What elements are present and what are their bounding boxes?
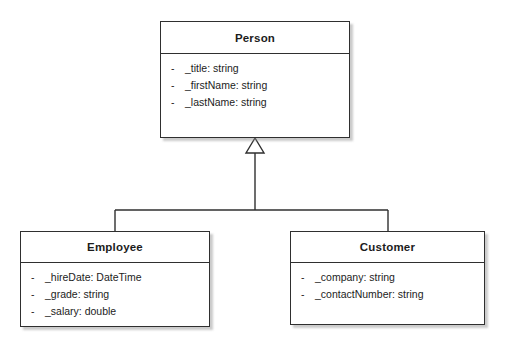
attribute-label: _firstName: string <box>185 78 267 93</box>
visibility-marker: - <box>21 304 45 319</box>
visibility-marker: - <box>161 95 185 110</box>
uml-diagram-canvas: Person - _title: string - _firstName: st… <box>0 0 509 358</box>
attribute-label: _grade: string <box>45 287 109 302</box>
visibility-marker: - <box>291 287 315 302</box>
attribute-row: - _hireDate: DateTime <box>21 270 205 285</box>
class-name-customer: Customer <box>291 232 484 263</box>
class-box-person[interactable]: Person - _title: string - _firstName: st… <box>160 21 350 138</box>
visibility-marker: - <box>291 270 315 285</box>
class-name-person: Person <box>161 22 349 54</box>
attribute-row: - _company: string <box>291 270 480 285</box>
attribute-row: - _contactNumber: string <box>291 287 480 302</box>
attribute-row: - _firstName: string <box>161 78 345 93</box>
visibility-marker: - <box>161 78 185 93</box>
attribute-compartment-person: - _title: string - _firstName: string - … <box>161 54 349 137</box>
attribute-row: - _lastName: string <box>161 95 345 110</box>
visibility-marker: - <box>21 287 45 302</box>
attribute-label: _lastName: string <box>185 95 267 110</box>
hollow-triangle-arrow-icon <box>246 138 264 153</box>
class-box-customer[interactable]: Customer - _company: string - _contactNu… <box>290 231 485 325</box>
attribute-row: - _salary: double <box>21 304 205 319</box>
attribute-compartment-customer: - _company: string - _contactNumber: str… <box>291 263 484 324</box>
attribute-row: - _grade: string <box>21 287 205 302</box>
visibility-marker: - <box>161 61 185 76</box>
attribute-compartment-employee: - _hireDate: DateTime - _grade: string -… <box>21 263 209 326</box>
attribute-label: _company: string <box>315 270 395 285</box>
attribute-label: _title: string <box>185 61 239 76</box>
visibility-marker: - <box>21 270 45 285</box>
attribute-label: _salary: double <box>45 304 116 319</box>
attribute-label: _contactNumber: string <box>315 287 424 302</box>
class-box-employee[interactable]: Employee - _hireDate: DateTime - _grade:… <box>20 231 210 327</box>
attribute-label: _hireDate: DateTime <box>45 270 141 285</box>
attribute-row: - _title: string <box>161 61 345 76</box>
class-name-employee: Employee <box>21 232 209 263</box>
